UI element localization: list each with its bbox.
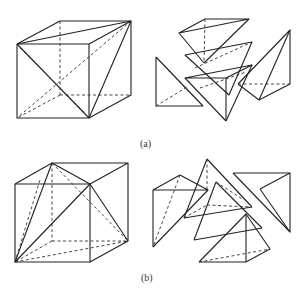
piece-b-2 <box>184 159 252 218</box>
caption-b: (b) <box>141 272 153 284</box>
piece-b-4 <box>233 173 290 232</box>
piece-b-1 <box>153 175 208 247</box>
cube-a-hidden-edge <box>17 95 60 118</box>
pieces-b <box>153 159 290 262</box>
piece-a-5 <box>238 30 290 100</box>
cube-b-diagonal <box>52 163 90 184</box>
piece-b-5 <box>199 214 270 262</box>
piece-a-1 <box>179 19 249 63</box>
caption-a: (a) <box>140 138 151 150</box>
piece-a-4 <box>185 65 252 121</box>
pieces-a <box>156 19 290 121</box>
cube-a-diagonal <box>89 21 131 118</box>
cube-b-diagonal <box>90 184 128 241</box>
cube-a-space-diagonal <box>17 21 131 118</box>
cube-b-diagonal <box>15 184 90 262</box>
cube-b <box>15 163 128 262</box>
cube-b-diagonal <box>15 163 52 262</box>
cube-a-diagonal <box>17 21 131 44</box>
cube-a <box>17 21 131 118</box>
figure-canvas: (a) <box>0 0 306 297</box>
